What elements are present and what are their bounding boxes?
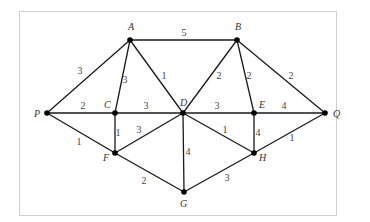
edge-weight-p-f: 1 — [77, 136, 82, 147]
node-label-d: D — [179, 97, 188, 108]
edge-weight-b-e: 2 — [247, 70, 252, 81]
node-e — [251, 110, 257, 116]
edge-weight-f-g: 2 — [142, 175, 147, 186]
edge-weight-a-c: 3 — [123, 74, 128, 85]
edge-weight-e-h: 4 — [256, 127, 261, 138]
edge-weight-b-q: 2 — [289, 70, 294, 81]
node-label-e: E — [258, 99, 265, 110]
edge-weight-q-h: 1 — [290, 132, 295, 143]
node-g — [181, 189, 187, 195]
edge-weight-p-c: 2 — [81, 100, 86, 111]
edge-weight-a-b: 5 — [182, 27, 187, 38]
node-label-a: A — [127, 21, 135, 32]
node-label-f: F — [102, 152, 110, 163]
edge-weight-b-d: 2 — [217, 70, 222, 81]
edge-weight-c-f: 1 — [116, 127, 121, 138]
node-a — [127, 37, 133, 43]
edge-weight-d-g: 4 — [186, 146, 191, 157]
node-label-q: Q — [333, 108, 341, 119]
node-p — [44, 110, 50, 116]
edge-weight-d-h: 1 — [223, 124, 228, 135]
edge-weight-a-p: 3 — [78, 65, 83, 76]
edge-weight-d-e: 3 — [215, 100, 220, 111]
graph-canvas: 53312222334113414123 ABPCDEQFHG — [0, 0, 370, 222]
edge-weight-g-h: 3 — [225, 172, 230, 183]
node-h — [251, 150, 257, 156]
node-label-g: G — [180, 198, 187, 209]
node-f — [112, 150, 118, 156]
node-d — [180, 110, 186, 116]
node-c — [112, 110, 118, 116]
edge-weight-a-d: 1 — [162, 70, 167, 81]
edge-weight-f-d: 3 — [137, 124, 142, 135]
node-label-c: C — [104, 99, 111, 110]
node-q — [322, 110, 328, 116]
node-label-h: H — [258, 152, 267, 163]
node-b — [234, 37, 240, 43]
node-label-p: P — [33, 108, 40, 119]
edge-weight-c-d: 3 — [144, 100, 149, 111]
edge-weight-e-q: 4 — [282, 100, 287, 111]
graph-diagram: 53312222334113414123 ABPCDEQFHG — [0, 0, 370, 222]
node-label-b: B — [235, 21, 241, 32]
